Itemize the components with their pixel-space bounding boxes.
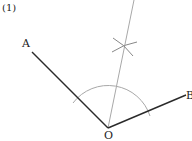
ray-OB <box>108 95 186 128</box>
label-A: A <box>22 38 30 49</box>
ray-OA <box>32 52 108 128</box>
bisector-line <box>108 0 134 128</box>
angle-bisector-diagram <box>0 0 192 141</box>
label-B: B <box>186 90 192 101</box>
label-O: O <box>104 130 113 141</box>
